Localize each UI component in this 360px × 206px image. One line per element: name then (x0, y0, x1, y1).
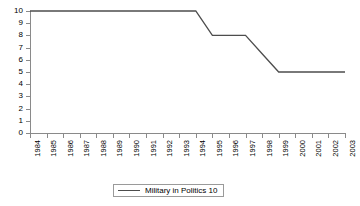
x-axis-tick-label: 1985 (50, 140, 58, 157)
x-axis-tick (262, 134, 263, 138)
x-axis-tick-label: 2000 (299, 140, 307, 157)
y-axis-tick (26, 11, 30, 12)
x-axis-tick-label: 1997 (249, 140, 257, 157)
y-axis-tick (26, 109, 30, 110)
x-axis-tick (129, 134, 130, 138)
x-axis-tick (113, 134, 114, 138)
y-axis-tick (26, 23, 30, 24)
x-axis-tick-label: 1986 (67, 140, 75, 157)
x-axis-tick (96, 134, 97, 138)
y-axis-tick-label: 8 (0, 31, 23, 39)
x-axis-tick-label: 2002 (332, 140, 340, 157)
y-axis-tick-label: 3 (0, 92, 23, 100)
y-axis-tick-label: 4 (0, 80, 23, 88)
legend-item-label: Military in Politics 10 (145, 186, 217, 195)
y-axis-tick-label: 1 (0, 117, 23, 125)
x-axis-tick-label: 1988 (100, 140, 108, 157)
x-axis-tick (196, 134, 197, 138)
y-axis-line (30, 11, 31, 134)
y-axis-tick (26, 72, 30, 73)
x-axis-tick-label: 1992 (166, 140, 174, 157)
y-axis-tick (26, 60, 30, 61)
x-axis-tick (30, 134, 31, 138)
y-axis-tick-label: 6 (0, 56, 23, 64)
y-axis-tick-label: 10 (0, 7, 23, 15)
x-axis-tick (80, 134, 81, 138)
x-axis-tick-label: 1996 (232, 140, 240, 157)
x-axis-tick-label: 1984 (34, 140, 42, 157)
y-axis-tick (26, 96, 30, 97)
x-axis-tick (345, 134, 346, 138)
x-axis-tick (179, 134, 180, 138)
y-axis-tick-label: 2 (0, 105, 23, 113)
x-axis-tick (163, 134, 164, 138)
x-axis-tick (47, 134, 48, 138)
x-axis-tick-label: 1995 (216, 140, 224, 157)
x-axis-tick (279, 134, 280, 138)
x-axis-tick-label: 2001 (315, 140, 323, 157)
x-axis-tick-label: 1993 (183, 140, 191, 157)
y-axis-tick (26, 48, 30, 49)
x-axis-tick-label: 1994 (199, 140, 207, 157)
legend-line-swatch (118, 190, 140, 191)
y-axis-tick (26, 84, 30, 85)
x-axis-tick-label: 1998 (266, 140, 274, 157)
x-axis-tick (212, 134, 213, 138)
series-layer (0, 0, 360, 206)
series-line-military-in-politics-10 (30, 11, 345, 72)
x-axis-tick-label: 1999 (282, 140, 290, 157)
legend: Military in Politics 10 (113, 184, 224, 197)
line-chart: 109876543210 198419851986198719881989199… (0, 0, 360, 206)
x-axis-tick-label: 2003 (349, 140, 357, 157)
x-axis-tick-label: 1991 (150, 140, 158, 157)
x-axis-line (30, 133, 346, 134)
y-axis-tick-label: 9 (0, 19, 23, 27)
y-axis-tick-label: 5 (0, 68, 23, 76)
y-axis-tick (26, 35, 30, 36)
x-axis-tick (246, 134, 247, 138)
x-axis-tick (312, 134, 313, 138)
x-axis-tick-label: 1987 (83, 140, 91, 157)
x-axis-tick (229, 134, 230, 138)
x-axis-tick (146, 134, 147, 138)
y-axis-tick-label: 7 (0, 44, 23, 52)
x-axis-tick (295, 134, 296, 138)
y-axis-tick-label: 0 (0, 129, 23, 137)
y-axis-tick (26, 121, 30, 122)
x-axis-tick (328, 134, 329, 138)
x-axis-tick-label: 1989 (116, 140, 124, 157)
x-axis-tick (63, 134, 64, 138)
x-axis-tick-label: 1990 (133, 140, 141, 157)
